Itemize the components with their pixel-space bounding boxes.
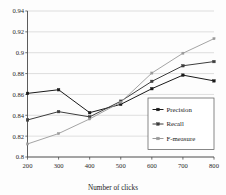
data-point-marker [57,132,59,134]
x-axis-tick-labels: 200300400500600700800 [23,162,220,169]
y-tick-label: 0.8 [16,153,25,160]
x-tick-label: 500 [116,162,127,169]
data-point-marker [57,110,60,113]
data-point-marker [151,80,154,83]
x-tick-label: 700 [178,162,189,169]
chart-figure: 0.80.820.840.860.880.90.920.94 200300400… [0,0,226,195]
data-point-marker [120,101,122,103]
legend-label: Precision [167,106,193,113]
legend-marker-icon [157,123,160,126]
data-point-marker [57,88,60,91]
y-tick-label: 0.94 [12,7,24,14]
data-point-marker [151,72,153,74]
x-axis-title: Number of clicks [88,184,138,192]
data-point-marker [182,74,185,77]
legend-marker-icon [157,137,160,140]
x-tick-label: 300 [54,162,65,169]
x-tick-label: 400 [85,162,96,169]
y-tick-label: 0.88 [12,70,24,77]
legend-label: F-measure [167,135,196,142]
y-tick-label: 0.86 [12,91,24,98]
chart-legend: PrecisionRecallF-measure [148,98,214,150]
legend-label: Recall [167,120,184,127]
y-tick-label: 0.9 [16,49,25,56]
y-tick-label: 0.92 [12,28,24,35]
data-point-marker [26,92,29,95]
y-axis-tick-labels: 0.80.820.840.860.880.90.920.94 [12,7,27,160]
data-point-marker [182,52,184,54]
legend-marker-icon [157,108,160,111]
data-point-marker [182,64,185,67]
data-point-marker [151,87,154,90]
y-tick-label: 0.82 [12,133,24,140]
x-tick-label: 800 [209,162,220,169]
data-point-marker [26,143,28,145]
data-point-marker [213,38,215,40]
data-point-marker [88,111,91,114]
data-point-marker [213,80,216,83]
data-point-marker [213,60,216,63]
data-point-marker [26,119,29,122]
x-tick-label: 600 [147,162,158,169]
y-tick-label: 0.84 [12,112,24,119]
x-tick-label: 200 [23,162,34,169]
line-chart: 0.80.820.840.860.880.90.920.94 200300400… [0,0,226,195]
data-point-marker [89,118,91,120]
